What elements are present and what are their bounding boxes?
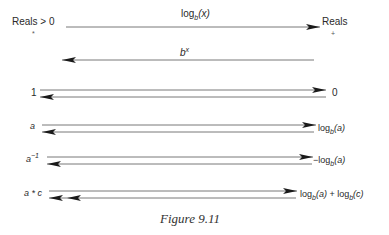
codomain-label: Reals	[322, 17, 348, 27]
row4-right: logb(a) + logb(c)	[300, 190, 364, 199]
domain-operation-mark: *	[32, 30, 35, 37]
row3-left: a−1	[26, 155, 39, 164]
row4-left: a * c	[24, 189, 42, 198]
row1-right: 0	[332, 88, 338, 98]
row1-left: 1	[31, 88, 37, 98]
row2-right: logb(a)	[318, 124, 345, 133]
domain-label: Reals > 0	[12, 17, 55, 27]
forward-map-label: logb(x)	[181, 9, 210, 19]
figure-caption: Figure 9.11	[160, 212, 220, 225]
row3-right: −logb(a)	[313, 156, 345, 165]
codomain-operation-mark: +	[331, 30, 335, 37]
inverse-map-label: bx	[180, 48, 189, 58]
row2-left: a	[30, 122, 35, 131]
